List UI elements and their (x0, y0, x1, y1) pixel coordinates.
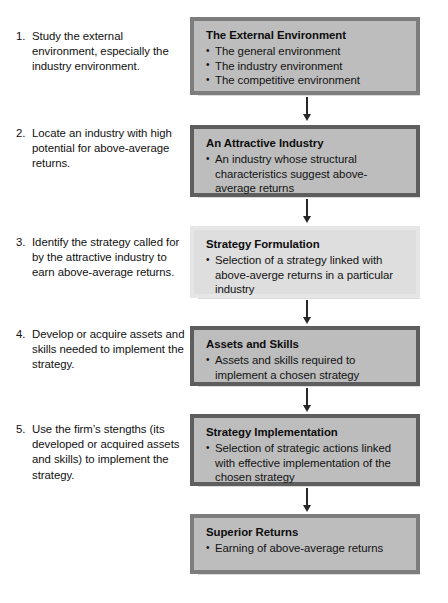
list-item: Selection of strategic actions linked wi… (206, 441, 407, 485)
step-number: 1. (16, 29, 32, 44)
list-item: The competitive environment (206, 73, 407, 88)
list-item: Selection of a strategy linked with abov… (206, 253, 407, 297)
flow-box-list: Assets and skills required to implement … (206, 353, 407, 382)
arrow-implementation-to-returns (302, 488, 311, 513)
step-text: Develop or acquire assets and skills nee… (32, 327, 188, 373)
step-text: Use the firm’s stengths (its developed o… (32, 422, 188, 483)
flow-box-list: Selection of strategic actions linked wi… (206, 441, 407, 485)
list-item: The general environment (206, 44, 407, 59)
arrow-industry-to-formulation (302, 199, 311, 224)
flow-box-list: Earning of above-average returns (206, 541, 407, 556)
flow-box-strategy-formulation: Strategy Formulation Selection of a stra… (190, 226, 420, 298)
flow-box-external-environment: The External Environment The general env… (190, 17, 420, 95)
flow-box-superior-returns: Superior Returns Earning of above-averag… (190, 514, 420, 574)
step-text: Identify the strategy called for by the … (32, 235, 188, 281)
flow-box-list: Selection of a strategy linked with abov… (206, 253, 407, 297)
flow-box-assets-and-skills: Assets and Skills Assets and skills requ… (190, 326, 420, 386)
step-text: Study the external environment, especial… (32, 29, 188, 75)
step-number: 2. (16, 126, 32, 141)
flow-box-title: Superior Returns (206, 525, 407, 540)
flow-box-list: The general environment The industry env… (206, 44, 407, 88)
step-text: Locate an industry with high potential f… (32, 126, 188, 172)
flow-box-title: An Attractive Industry (206, 136, 407, 151)
step-number: 5. (16, 422, 32, 437)
arrow-assets-to-implementation (302, 388, 311, 413)
flow-box-title: Assets and Skills (206, 337, 407, 352)
flow-box-title: Strategy Implementation (206, 425, 407, 440)
flow-box-title: The External Environment (206, 28, 407, 43)
flow-box-strategy-implementation: Strategy Implementation Selection of str… (190, 414, 420, 486)
flow-box-attractive-industry: An Attractive Industry An industry whose… (190, 125, 420, 197)
step-item-3: 3. Identify the strategy called for by t… (16, 235, 188, 281)
step-number: 3. (16, 235, 32, 250)
step-item-2: 2. Locate an industry with high potentia… (16, 126, 188, 172)
io-model-flow-diagram: 1. Study the external environment, espec… (0, 0, 448, 603)
step-item-1: 1. Study the external environment, espec… (16, 29, 188, 75)
list-item: Assets and skills required to implement … (206, 353, 407, 382)
flow-box-list: An industry whose structural characteris… (206, 152, 407, 196)
list-item: An industry whose structural characteris… (206, 152, 407, 196)
flow-box-title: Strategy Formulation (206, 237, 407, 252)
step-item-5: 5. Use the firm’s stengths (its develope… (16, 422, 188, 483)
arrow-formulation-to-assets (302, 300, 311, 325)
step-number: 4. (16, 327, 32, 342)
list-item: Earning of above-average returns (206, 541, 407, 556)
step-item-4: 4. Develop or acquire assets and skills … (16, 327, 188, 373)
arrow-external-to-industry (302, 97, 311, 122)
list-item: The industry environment (206, 59, 407, 74)
